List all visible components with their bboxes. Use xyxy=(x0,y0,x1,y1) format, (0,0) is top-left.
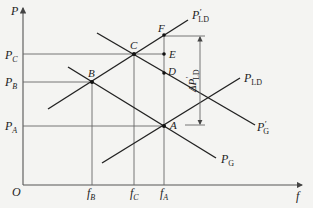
point-E xyxy=(162,52,166,56)
x-axis-label: f xyxy=(296,189,301,203)
label-A: A xyxy=(169,119,177,131)
label-P-LD-prime: P′LD xyxy=(191,7,209,24)
tick-PA: PA xyxy=(4,119,17,135)
label-P-G-prime: P′G xyxy=(256,119,269,136)
tick-fB: fB xyxy=(87,186,95,202)
label-F: F xyxy=(157,22,165,34)
y-axis-label: P xyxy=(10,4,19,18)
curve-P-G-prime xyxy=(97,33,255,125)
point-C xyxy=(132,52,136,56)
label-delta-P-LD-prime: ΔP′LD xyxy=(185,69,201,93)
label-B: B xyxy=(88,67,95,79)
label-D: D xyxy=(167,65,176,77)
point-B xyxy=(90,80,94,84)
curve-P-LD-prime xyxy=(48,20,188,109)
tick-fC: fC xyxy=(130,186,139,202)
origin-label: O xyxy=(12,185,21,199)
label-C: C xyxy=(130,39,138,51)
label-E: E xyxy=(168,48,176,60)
tick-fA: fA xyxy=(160,186,168,202)
tick-PB: PB xyxy=(4,75,17,91)
supply-demand-shift-diagram: P f O PC PB PA fB fC fA A B C D E F P′LD… xyxy=(0,0,313,208)
tick-PC: PC xyxy=(4,48,18,64)
point-D xyxy=(162,71,166,75)
point-A xyxy=(162,124,166,128)
label-P-G: PG xyxy=(220,152,234,168)
label-P-LD: PLD xyxy=(243,71,262,87)
